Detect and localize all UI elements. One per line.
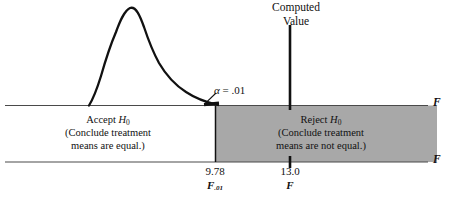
reject-region-line1: Reject H0 bbox=[236, 114, 406, 127]
alpha-symbol: α bbox=[214, 84, 220, 96]
accept-region-h-symbol: H bbox=[119, 114, 127, 125]
reject-region-h-subscript: 0 bbox=[338, 118, 342, 127]
accept-region-line2: (Conclude treatment bbox=[28, 127, 188, 139]
reject-region-line2: (Conclude treatment bbox=[236, 127, 406, 139]
critical-value-number: 9.78 bbox=[186, 165, 244, 177]
top-axis-label: F bbox=[433, 96, 441, 108]
critical-value-symbol-subscript: .01 bbox=[214, 184, 223, 192]
accept-region-line1: Accept H0 bbox=[28, 114, 188, 127]
reject-region-line3: means are not equal.) bbox=[236, 140, 406, 152]
computed-value-caption-line1: Computed bbox=[246, 1, 346, 15]
accept-region-prefix: Accept bbox=[86, 114, 118, 125]
alpha-annotation: α = .01 bbox=[214, 84, 288, 97]
computed-value-caption-line2: Value bbox=[246, 15, 346, 29]
accept-region-label: Accept H0 (Conclude treatment means are … bbox=[28, 114, 188, 152]
reject-region-label: Reject H0 (Conclude treatment means are … bbox=[236, 114, 406, 152]
computed-value-caption: Computed Value bbox=[246, 1, 346, 28]
alpha-tail-segment bbox=[204, 103, 219, 104]
figure-canvas: Computed Value α = .01 Accept H0 (Conclu… bbox=[0, 0, 454, 199]
critical-value-symbol: F.01 bbox=[186, 179, 244, 192]
bottom-axis-label: F bbox=[433, 153, 441, 165]
alpha-equals-text: = .01 bbox=[223, 84, 246, 96]
statistic-value-number: 13.0 bbox=[261, 165, 319, 177]
reject-region-h-symbol: H bbox=[330, 114, 338, 125]
accept-region-line3: means are equal.) bbox=[28, 140, 188, 152]
f-distribution-curve bbox=[89, 8, 218, 106]
accept-region-h-subscript: 0 bbox=[126, 118, 130, 127]
statistic-value-symbol: F bbox=[261, 179, 319, 191]
reject-region-prefix: Reject bbox=[301, 114, 330, 125]
